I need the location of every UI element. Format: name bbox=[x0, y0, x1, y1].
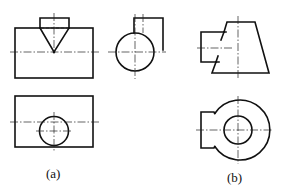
view-b-front bbox=[197, 16, 269, 80]
view-b-top bbox=[196, 96, 272, 164]
b-front-tick-upper bbox=[221, 32, 224, 40]
view-a-side bbox=[108, 14, 166, 79]
b-front-trapezoid bbox=[212, 22, 269, 73]
view-a-top bbox=[10, 96, 100, 151]
b-front-tick-lower bbox=[216, 56, 218, 62]
label-b: (b) bbox=[227, 170, 242, 185]
a-front-apex-dot bbox=[53, 51, 56, 54]
view-a-front bbox=[10, 13, 100, 78]
label-a: (a) bbox=[46, 166, 60, 181]
a-front-cap bbox=[40, 18, 69, 28]
technical-drawing: (a) (b) bbox=[0, 0, 284, 193]
a-front-v-notch bbox=[40, 28, 69, 52]
